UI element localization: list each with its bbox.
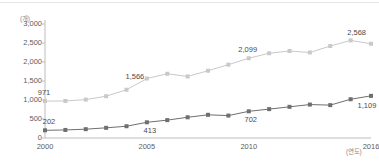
series-data-point: [165, 118, 169, 122]
series-data-point: [247, 56, 251, 60]
data-point-label: 2,568: [347, 28, 366, 37]
series-data-point: [63, 99, 67, 103]
series-data-point: [84, 98, 88, 102]
series-data-point: [145, 76, 149, 80]
series-data-point: [43, 99, 47, 103]
data-point-label: 1,566: [125, 72, 144, 81]
series-data-point: [308, 103, 312, 107]
series-data-point: [84, 127, 88, 131]
series-data-point: [104, 126, 108, 130]
series-data-point: [206, 69, 210, 73]
series-data-point: [63, 128, 67, 132]
series-data-point: [328, 103, 332, 107]
data-point-label: 1,109: [358, 101, 377, 110]
series-data-point: [186, 74, 190, 78]
series-data-point: [349, 38, 353, 42]
series-data-point: [247, 109, 251, 113]
series-data-point: [267, 51, 271, 55]
series-data-point: [226, 114, 230, 118]
series-data-point: [206, 113, 210, 117]
series-data-point: [104, 94, 108, 98]
series-data-point: [349, 97, 353, 101]
plot-area: [0, 0, 379, 163]
data-point-label: 702: [244, 115, 257, 124]
series-data-point: [43, 128, 47, 132]
line-chart: (개) (연도) 3,0002,5002,0001,5001,0005000 2…: [0, 0, 379, 163]
series-data-point: [369, 94, 373, 98]
series-data-point: [267, 107, 271, 111]
series-data-point: [328, 44, 332, 48]
data-point-label: 202: [43, 117, 56, 126]
series-data-point: [125, 124, 129, 128]
series-data-point: [288, 49, 292, 53]
series-data-point: [308, 51, 312, 55]
data-point-label: 2,099: [238, 45, 257, 54]
series-data-point: [165, 72, 169, 76]
data-point-label: 413: [144, 126, 157, 135]
series-data-point: [226, 63, 230, 67]
series-data-point: [186, 115, 190, 119]
series-data-point: [125, 88, 129, 92]
data-point-label: 971: [38, 88, 51, 97]
series-data-point: [369, 42, 373, 46]
series-data-point: [145, 120, 149, 124]
series-data-point: [288, 105, 292, 109]
